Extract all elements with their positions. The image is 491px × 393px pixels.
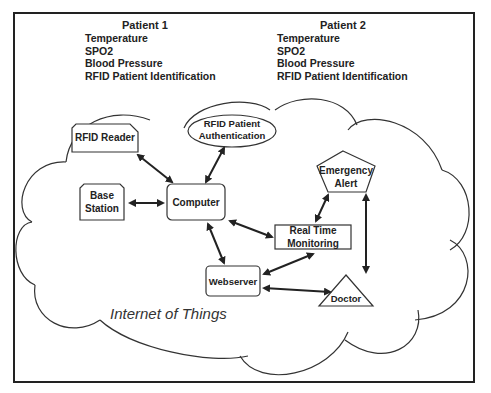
patient-2-list: Temperature SPO2 Blood Pressure RFID Pat…	[277, 32, 408, 82]
patient-2-item: RFID Patient Identification	[277, 70, 408, 83]
rfid-auth-label-line2: Authentication	[190, 130, 274, 142]
rfid-auth-label-line1: RFID Patient	[190, 118, 274, 130]
diagram-canvas	[0, 0, 491, 393]
patient-2-item: SPO2	[277, 45, 408, 58]
base-station-label-line2: Station	[80, 202, 124, 215]
doctor-label: Doctor	[319, 292, 373, 305]
rtm-label-line1: Real Time	[275, 224, 351, 237]
computer-label: Computer	[167, 196, 225, 209]
edge-webserver-rtm	[264, 254, 313, 274]
base-station-label-line1: Base	[80, 189, 124, 202]
patient-1-item: Temperature	[85, 32, 216, 45]
cloud-label: Internet of Things	[110, 305, 227, 322]
edge-computer-rtm	[230, 221, 272, 237]
rfid-reader-label: RFID Reader	[72, 131, 138, 144]
edge-emergency-rtm	[316, 195, 328, 221]
patient-1-item: Blood Pressure	[85, 57, 216, 70]
rtm-label: Real Time Monitoring	[275, 224, 351, 250]
patient-2-item: Temperature	[277, 32, 408, 45]
emergency-label-line2: Alert	[315, 177, 377, 190]
webserver-label: Webserver	[206, 275, 260, 288]
patient-2-item: Blood Pressure	[277, 57, 408, 70]
patient-1-list: Temperature SPO2 Blood Pressure RFID Pat…	[85, 32, 216, 82]
patient-1-title: Patient 1	[122, 19, 168, 31]
base-station-label: Base Station	[80, 189, 124, 215]
patient-1-item: RFID Patient Identification	[85, 70, 216, 83]
edge-rfidreader-computer	[138, 155, 172, 182]
patient-1-item: SPO2	[85, 45, 216, 58]
emergency-label-line1: Emergency	[315, 164, 377, 177]
edge-rfidauth-computer	[206, 148, 224, 182]
emergency-alert-label: Emergency Alert	[315, 164, 377, 190]
patient-2-title: Patient 2	[320, 19, 366, 31]
rtm-label-line2: Monitoring	[275, 237, 351, 250]
edge-computer-webserver	[208, 224, 224, 263]
rfid-auth-label: RFID Patient Authentication	[190, 118, 274, 142]
